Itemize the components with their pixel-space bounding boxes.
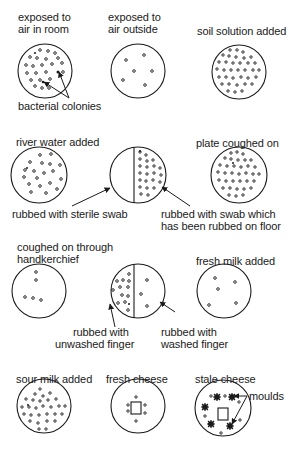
label-air-outside-2: air outside bbox=[108, 23, 158, 35]
colonies-fresh-cheese bbox=[127, 396, 146, 422]
cheese-piece-fresh bbox=[131, 402, 141, 414]
label-fresh-cheese: fresh cheese bbox=[106, 373, 168, 385]
colonies-air-room bbox=[25, 49, 65, 90]
label-fresh-milk: fresh milk added bbox=[196, 255, 275, 267]
mould-icon bbox=[228, 393, 236, 401]
label-unwashed-1: rubbed with bbox=[73, 326, 129, 338]
label-moulds: moulds bbox=[249, 390, 284, 402]
label-floor-swab-1: rubbed with swab which bbox=[161, 208, 276, 220]
plate-fresh-milk bbox=[197, 264, 251, 318]
label-coughed: plate coughed on bbox=[196, 137, 279, 149]
mould-icon bbox=[201, 403, 209, 411]
colonies-stale-cheese bbox=[204, 395, 241, 434]
label-soil: soil solution added bbox=[197, 25, 286, 37]
plate-split-swab bbox=[110, 147, 166, 203]
label-air-outside-1: exposed to bbox=[108, 11, 161, 23]
label-handkerchief-2: handkerchief bbox=[17, 253, 79, 265]
mould-icon bbox=[213, 393, 221, 401]
colonies-sour-milk bbox=[21, 388, 66, 430]
label-sour-milk: sour milk added bbox=[16, 373, 92, 385]
plate-fresh-cheese bbox=[111, 379, 165, 433]
label-air-room-2: air in room bbox=[18, 23, 69, 35]
plate-handkerchief bbox=[12, 264, 66, 318]
colonies-floor-swab bbox=[139, 151, 162, 196]
mould-icon bbox=[226, 422, 234, 430]
colonies-fresh-milk bbox=[208, 277, 238, 307]
label-bacterial-colonies: bacterial colonies bbox=[18, 100, 101, 112]
colonies-soil bbox=[216, 49, 260, 93]
label-washed-2: washed finger bbox=[161, 338, 228, 350]
label-unwashed-2: unwashed finger bbox=[55, 338, 134, 350]
mould-icon bbox=[207, 420, 215, 428]
colonies-river bbox=[23, 153, 63, 195]
colonies-handkerchief bbox=[24, 271, 43, 302]
colonies-coughed bbox=[217, 151, 260, 197]
label-river: river water added bbox=[16, 136, 99, 148]
plate-split-finger bbox=[111, 264, 165, 318]
colonies-air-outside bbox=[122, 54, 154, 87]
colonies-washed-finger bbox=[140, 279, 149, 308]
label-washed-1: rubbed with bbox=[161, 326, 217, 338]
label-air-room-1: exposed to bbox=[18, 11, 71, 23]
label-stale-cheese: stale cheese bbox=[195, 373, 256, 385]
label-sterile-swab: rubbed with sterile swab bbox=[12, 208, 128, 220]
label-floor-swab-2: has been rubbed on floor bbox=[161, 220, 281, 232]
cheese-piece-stale bbox=[218, 408, 228, 420]
plate-air-outside bbox=[111, 44, 165, 98]
label-handkerchief-1: coughed on through bbox=[17, 241, 113, 253]
plate-soil bbox=[212, 45, 266, 99]
